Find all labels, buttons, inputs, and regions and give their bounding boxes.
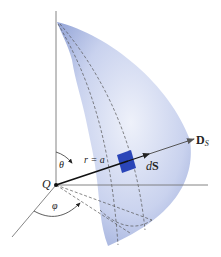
charge-label: Q — [42, 177, 51, 191]
radius-label: r = a — [84, 154, 105, 165]
theta-label: θ — [59, 159, 64, 170]
charge-point — [54, 183, 58, 187]
phi-label: φ — [52, 200, 58, 211]
gaussian-surface-diagram: Q θ φ r = a dS DS — [0, 0, 221, 257]
flux-density-label: DS — [196, 133, 209, 148]
surface-element-label: dS — [146, 159, 159, 173]
